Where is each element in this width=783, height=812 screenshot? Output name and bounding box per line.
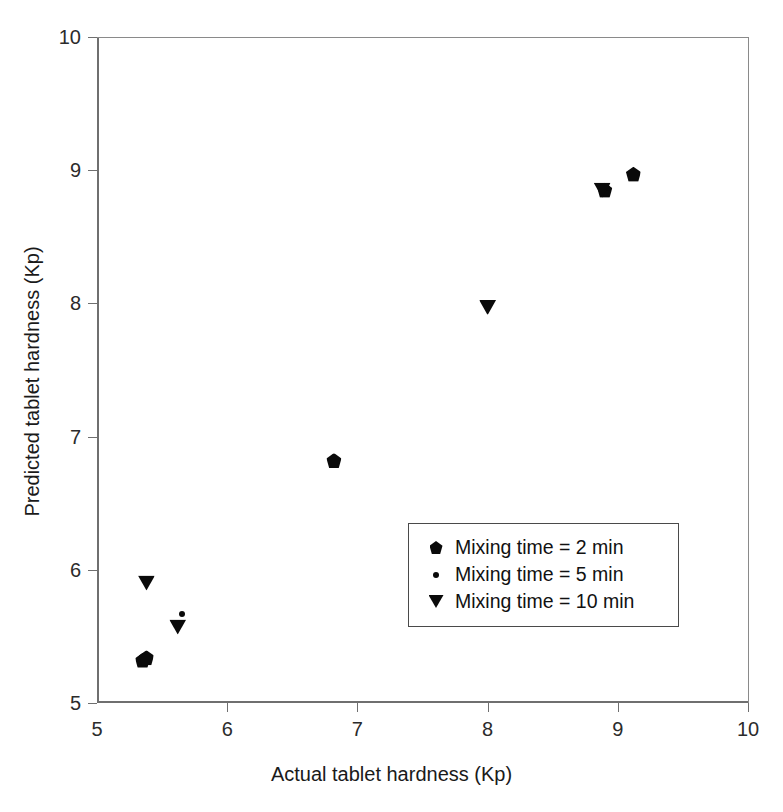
legend-item: Mixing time = 5 min — [423, 561, 668, 588]
x-tick-label: 9 — [595, 719, 641, 739]
x-tick — [357, 703, 358, 712]
x-tick — [748, 703, 749, 712]
legend: Mixing time = 2 min Mixing time = 5 min … — [408, 523, 679, 627]
data-point — [179, 611, 185, 617]
legend-item-label: Mixing time = 5 min — [449, 563, 624, 586]
pentagon-marker-icon — [423, 541, 449, 554]
x-tick — [227, 703, 228, 712]
x-tick-label: 10 — [725, 719, 771, 739]
y-axis-title: Predicted tablet hardness (Kp) — [21, 32, 44, 732]
y-tick — [88, 437, 97, 438]
x-axis-title: Actual tablet hardness (Kp) — [0, 763, 783, 786]
y-tick — [88, 37, 97, 38]
triangle-down-marker-icon — [423, 595, 449, 608]
y-tick — [88, 570, 97, 571]
plot-border-top — [97, 37, 748, 38]
x-tick — [488, 703, 489, 712]
legend-item-label: Mixing time = 10 min — [449, 590, 634, 613]
plot-border-right — [748, 37, 749, 703]
legend-item: Mixing time = 2 min — [423, 534, 668, 561]
x-tick-label: 6 — [204, 719, 250, 739]
y-tick — [88, 170, 97, 171]
y-tick — [88, 303, 97, 304]
legend-item: Mixing time = 10 min — [423, 588, 668, 615]
legend-item-label: Mixing time = 2 min — [449, 536, 624, 559]
y-tick — [88, 703, 97, 704]
x-tick — [618, 703, 619, 712]
scatter-plot-figure: 5678910 5678910 Mixing time = 2 min Mixi… — [0, 0, 783, 812]
x-tick-label: 8 — [465, 719, 511, 739]
x-tick-label: 7 — [334, 719, 380, 739]
x-tick-label: 5 — [74, 719, 120, 739]
dot-marker-icon — [423, 572, 449, 578]
